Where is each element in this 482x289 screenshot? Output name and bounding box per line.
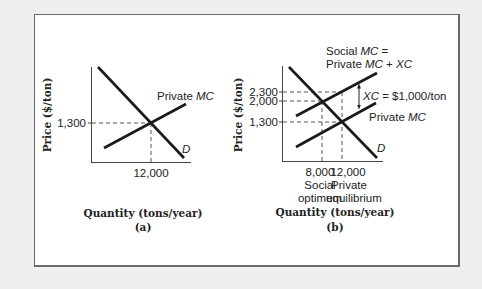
panel-a-x-tick-12000: 12,000 — [133, 167, 168, 179]
panel-a: 1,300 12,000 Private MC D Price ($/ton) … — [41, 67, 215, 233]
panel-a-y-axis-label: Price ($/ton) — [41, 78, 53, 153]
panel-b-demand-label: D — [377, 142, 385, 154]
panel-a-caption: (a) — [135, 221, 152, 233]
private-equilibrium-label-2: equilibrium — [326, 192, 382, 204]
panel-a-private-mc-curve — [104, 104, 186, 148]
panel-b-y-tick-2000: 2,000 — [249, 95, 278, 107]
xc-label: XC = $1,000/ton — [362, 90, 446, 102]
panel-b-private-mc-label: Private MC — [369, 111, 427, 123]
social-mc-label-line1: Social MC = — [326, 45, 389, 57]
social-mc-label-line2: Private MC + XC — [326, 58, 413, 70]
panel-b-y-tick-1300: 1,300 — [249, 116, 278, 128]
figure-svg: 1,300 12,000 Private MC D Price ($/ton) … — [0, 0, 482, 289]
panel-b-y-axis-label: Price ($/ton) — [232, 78, 244, 153]
panel-b-x-axis-label: Quantity (tons/year) — [276, 206, 395, 219]
panel-b: 2,300 2,000 1,300 8,000 12,000 Social op… — [232, 45, 446, 233]
panel-b-caption: (b) — [326, 221, 343, 233]
panel-a-demand-label: D — [182, 143, 190, 155]
panel-b-x-tick-12000: 12,000 — [330, 166, 365, 178]
panel-a-x-axis-label: Quantity (tons/year) — [84, 207, 203, 220]
panel-a-private-mc-label: Private MC — [157, 90, 215, 102]
private-equilibrium-label-1: Private — [331, 179, 367, 191]
panel-a-y-tick-1300: 1,300 — [57, 117, 86, 129]
